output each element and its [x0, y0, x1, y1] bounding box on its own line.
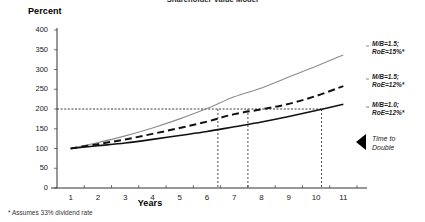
- footnote: * Assumes 33% dividend rate: [8, 209, 93, 216]
- series-label-1: M/B=1.5; RoE=12%*: [372, 73, 404, 89]
- series-label-2: M/B=1.0; RoE=12%*: [372, 101, 404, 117]
- series-line-2: [71, 104, 344, 148]
- left-triangle-icon: [356, 134, 366, 150]
- reference-lines: [57, 109, 322, 188]
- series-label-0: M/B=1.5; RoE=15%*: [372, 40, 404, 56]
- plot-area: [0, 0, 425, 222]
- chart-container: Shareholder Value Model Percent Years 05…: [0, 0, 425, 222]
- series-line-0: [71, 55, 344, 149]
- time-to-double-annotation: Time to Double: [372, 134, 395, 152]
- data-series: [71, 46, 369, 149]
